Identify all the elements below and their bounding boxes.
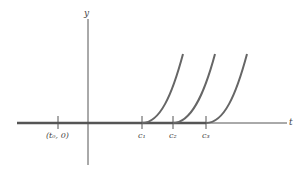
x-axis-label: t <box>289 118 293 127</box>
curve-c1 <box>142 54 183 123</box>
diagram-svg <box>0 0 308 173</box>
tick-label-c2: c₂ <box>169 132 177 140</box>
y-axis-label: y <box>84 9 89 18</box>
tick-label-c1: c₁ <box>138 132 146 140</box>
tick-label-t0: (t₀, 0) <box>46 132 69 140</box>
diagram-canvas: y t (t₀, 0) c₁ c₂ c₃ <box>0 0 308 173</box>
tick-label-c3: c₃ <box>202 132 210 140</box>
